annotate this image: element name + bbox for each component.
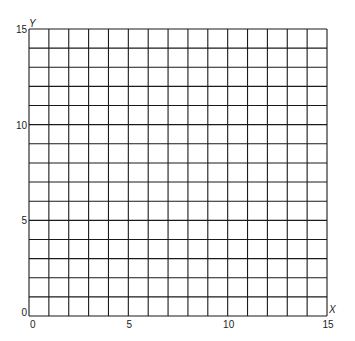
y-axis-label: Y [29,18,37,29]
tick-labels: 051015051015 [16,24,334,330]
y-tick-label: 15 [16,24,28,35]
grid-chart: 051015051015 X Y [0,0,355,341]
x-tick-label: 15 [322,319,334,330]
y-tick-label: 10 [16,120,28,131]
x-axis-label: X [328,304,336,315]
x-tick-label: 10 [223,319,235,330]
y-tick-label: 5 [21,215,27,226]
y-tick-label: 0 [21,307,27,318]
grid-lines [29,29,327,316]
x-tick-label: 5 [127,319,133,330]
x-tick-label: 0 [30,319,36,330]
